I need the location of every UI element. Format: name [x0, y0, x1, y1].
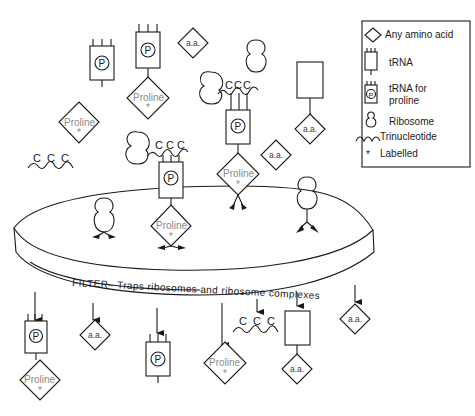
amino-acid: a.a. [178, 28, 208, 58]
trinucleotide-icon [356, 137, 380, 141]
trinucleotide-ccc: C C C [28, 152, 73, 169]
proline-labelled: Proline * [204, 342, 246, 384]
filter-label: FILTER– Traps ribosomes and ribosome com… [72, 277, 321, 301]
legend-label-trna-proline-1: tRNA for [389, 83, 427, 94]
ribosome [246, 40, 266, 72]
svg-text:a.a.: a.a. [269, 150, 283, 160]
legend: Any amino acid tRNA P tRNA for proline R… [356, 21, 470, 167]
svg-text:C: C [243, 79, 251, 91]
svg-text:a.a.: a.a. [186, 38, 200, 48]
ribosome-filter-binding-diagram: FILTER– Traps ribosomes and ribosome com… [0, 0, 475, 416]
trna-icon [365, 48, 377, 75]
svg-text:P: P [145, 45, 152, 56]
legend-label-trna: tRNA [389, 57, 413, 68]
ribosome-complex: C C C P [126, 132, 188, 205]
svg-text:*: * [223, 368, 227, 379]
asterisk-icon: * [366, 149, 370, 160]
svg-text:P: P [33, 331, 40, 342]
svg-text:P: P [369, 92, 374, 99]
legend-label-labelled: Labelled [380, 148, 418, 159]
svg-text:P: P [155, 354, 162, 365]
legend-label-ribosome: Ribosome [389, 116, 434, 127]
trna-with-amino-acid: a.a. [282, 311, 312, 384]
svg-text:*: * [236, 179, 240, 190]
ribosome-on-filter [296, 177, 319, 233]
svg-text:a.a.: a.a. [303, 124, 317, 134]
svg-text:P: P [99, 58, 106, 69]
svg-text:*: * [146, 102, 150, 113]
svg-text:*: * [169, 231, 173, 242]
trna-proline: P [146, 334, 170, 383]
trna-proline-icon: P [365, 81, 377, 103]
svg-text:Proline: Proline [223, 168, 255, 179]
svg-text:*: * [38, 385, 42, 396]
svg-text:C: C [155, 139, 163, 151]
svg-text:a.a.: a.a. [88, 330, 102, 340]
svg-text:Proline: Proline [156, 220, 188, 231]
proline-labelled: Proline * [59, 102, 99, 143]
svg-text:P: P [168, 173, 175, 184]
svg-text:C: C [253, 315, 261, 327]
trinucleotide-ccc: C C C [233, 315, 278, 333]
svg-text:*: * [77, 127, 81, 138]
ribosome-on-filter [92, 198, 116, 239]
svg-text:C: C [166, 139, 174, 151]
svg-text:P: P [235, 121, 242, 132]
legend-label-trinucleotide: Trinucleotide [380, 131, 437, 142]
svg-text:C: C [234, 79, 242, 91]
svg-text:C: C [225, 79, 233, 91]
svg-text:C: C [267, 315, 275, 327]
trna-proline-with-proline: P Proline * [127, 24, 169, 119]
svg-text:C: C [177, 139, 185, 151]
amino-acid: a.a. [340, 304, 370, 334]
ribosome-icon [366, 112, 376, 127]
svg-text:C: C [33, 152, 41, 164]
legend-label-trna-proline-2: proline [389, 95, 419, 106]
diamond-icon [365, 28, 381, 42]
amino-acid: a.a. [80, 320, 110, 350]
svg-text:C: C [239, 315, 247, 327]
amino-acid: a.a. [261, 140, 291, 170]
svg-text:a.a.: a.a. [290, 364, 304, 374]
svg-text:C: C [61, 152, 69, 164]
proline-on-filter: Proline * [151, 205, 191, 250]
svg-text:Proline: Proline [209, 357, 241, 368]
trna-proline-with-proline: P Proline * [20, 314, 60, 400]
legend-label-amino-acid: Any amino acid [385, 29, 453, 40]
trna-with-amino-acid: a.a. [295, 62, 325, 144]
svg-text:a.a.: a.a. [348, 314, 362, 324]
ribosome-complex-labelled: C C C P Proline * [200, 72, 259, 210]
legend-box [362, 21, 470, 167]
svg-text:Proline: Proline [24, 374, 56, 385]
filter-disc [14, 186, 374, 295]
trna-proline: P [90, 39, 114, 87]
svg-text:C: C [47, 152, 55, 164]
